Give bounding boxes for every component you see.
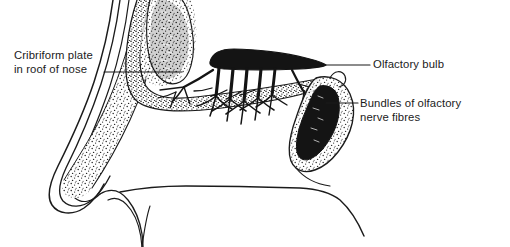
label-cribriform-plate: Cribriform plate in roof of nose (14, 48, 93, 76)
superior-turbinate (140, 0, 200, 92)
tongue-outline (142, 206, 150, 247)
label-nerve-bundles: Bundles of olfactory nerve fibres (360, 96, 461, 124)
label-olfactory-bulb: Olfactory bulb (373, 57, 444, 71)
anatomy-figure: Cribriform plate in roof of nose Olfacto… (0, 0, 510, 247)
hard-palate (120, 186, 364, 236)
olfactory-bulb (210, 49, 326, 70)
